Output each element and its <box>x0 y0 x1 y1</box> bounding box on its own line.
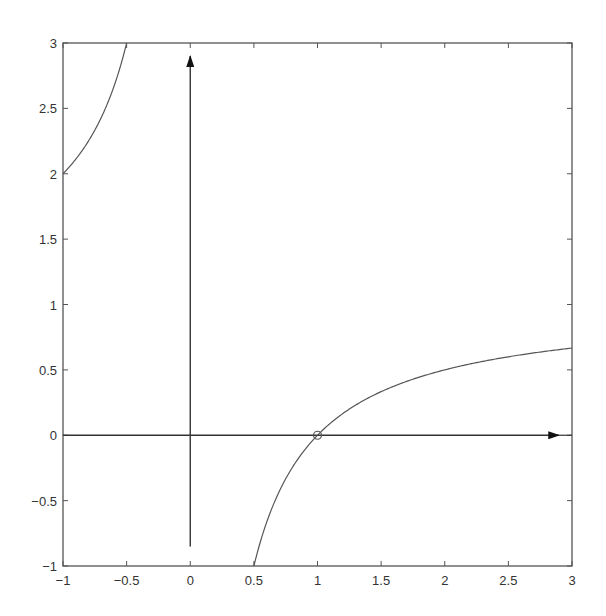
y-axis-ticks: −1−0.500.511.522.53 <box>31 36 572 574</box>
x-tick-label: 1 <box>314 573 321 588</box>
plot-border <box>63 43 572 566</box>
x-tick-label: 3 <box>568 573 575 588</box>
x-tick-label: −0.5 <box>114 573 140 588</box>
y-tick-label: 3 <box>50 36 57 51</box>
chart: −1−0.500.511.522.53 −1−0.500.511.522.53 <box>0 0 606 616</box>
x-axis-ticks: −1−0.500.511.522.53 <box>56 43 576 588</box>
x-tick-label: 0.5 <box>245 573 263 588</box>
y-tick-label: 2 <box>50 167 57 182</box>
function-curves <box>63 43 572 566</box>
axis-arrows <box>63 56 572 546</box>
x-tick-label: 0 <box>187 573 194 588</box>
y-tick-label: 0.5 <box>39 363 57 378</box>
curve-left-branch <box>63 43 127 174</box>
y-tick-label: 1 <box>50 298 57 313</box>
x-tick-label: 2 <box>441 573 448 588</box>
plot-frame <box>63 43 572 566</box>
curve-right-branch <box>254 348 572 566</box>
y-tick-label: 2.5 <box>39 101 57 116</box>
y-tick-label: −0.5 <box>31 494 57 509</box>
x-tick-label: 1.5 <box>372 573 390 588</box>
y-tick-label: −1 <box>42 559 57 574</box>
x-tick-label: −1 <box>56 573 71 588</box>
y-tick-label: 1.5 <box>39 232 57 247</box>
x-tick-label: 2.5 <box>499 573 517 588</box>
y-tick-label: 0 <box>50 428 57 443</box>
